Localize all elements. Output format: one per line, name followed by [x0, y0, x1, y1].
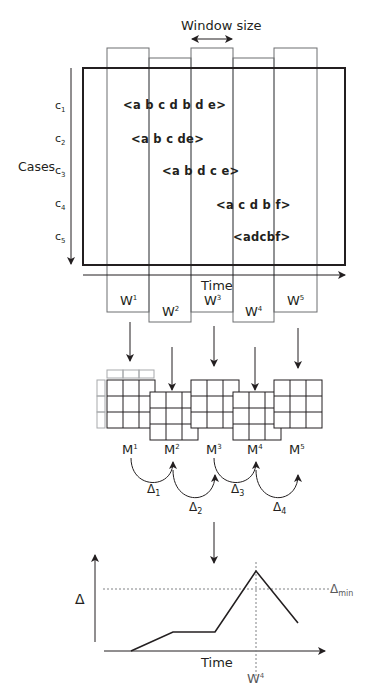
window-label-1: W1: [120, 294, 137, 307]
case-label-1: c1: [55, 100, 66, 114]
window-size-label: Window size: [181, 19, 262, 32]
matrix-3: [191, 380, 239, 428]
matrix-label-1: M1: [122, 443, 138, 456]
matrix-label-2: M2: [164, 443, 180, 456]
trace-case-2: <a b c de>: [131, 134, 204, 146]
delta-label-2: Δ2: [189, 501, 202, 516]
window-label-3: W3: [204, 294, 221, 307]
matrix-label-3: M3: [206, 443, 222, 456]
delta-label-4: Δ4: [273, 501, 286, 516]
case-label-3: c3: [55, 165, 66, 179]
matrices: [107, 380, 322, 440]
chart-x-label: Time: [201, 656, 233, 669]
window-label-2: W2: [162, 305, 179, 318]
matrix-1: [107, 380, 155, 428]
case-label-5: c5: [55, 231, 66, 245]
delta-label-1: Δ1: [147, 483, 160, 498]
case-label-2: c2: [55, 133, 66, 147]
trace-case-4: <a c d b f>: [216, 200, 291, 212]
chart-y-label: Δ: [75, 592, 85, 606]
trace-case-3: <a b d c e>: [162, 166, 239, 178]
trace-case-1: <a b c d b d e>: [123, 100, 226, 112]
matrix-5: [274, 380, 322, 428]
delta-label-3: Δ3: [231, 483, 244, 498]
window-5: [274, 48, 317, 312]
window-3: [191, 48, 233, 312]
cases-label: Cases: [18, 161, 55, 174]
delta-series-line: [131, 571, 298, 651]
chart-threshold-label: Δmin: [330, 583, 353, 598]
window-label-5: W5: [287, 294, 304, 307]
window-label-4: W4: [245, 305, 262, 318]
chart-drift-label: W4: [247, 672, 264, 685]
matrix-label-4: M4: [247, 443, 263, 456]
window-4: [233, 58, 274, 322]
case-label-4: c4: [55, 198, 66, 212]
time-label-top: Time: [201, 279, 233, 292]
matrix-label-5: M5: [289, 443, 305, 456]
trace-case-5: <adcbf>: [233, 232, 290, 244]
window-1: [107, 48, 149, 312]
